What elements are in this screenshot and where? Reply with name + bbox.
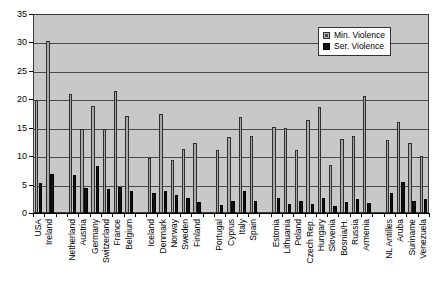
x-axis-tick-mark <box>203 213 204 217</box>
x-axis-tick-mark <box>67 213 68 217</box>
x-axis-tick-mark <box>406 213 407 217</box>
x-axis-category-label: Russia <box>351 219 360 245</box>
bar-ser-violence <box>299 201 302 213</box>
bar-min-violence <box>420 156 423 213</box>
bar-min-violence <box>239 117 242 213</box>
x-axis-tick-mark <box>418 213 419 217</box>
x-axis-tick-mark <box>293 213 294 217</box>
bar-ser-violence <box>73 175 76 213</box>
x-axis-tick-mark <box>90 213 91 217</box>
x-axis-tick-mark <box>124 213 125 217</box>
y-axis-tick-label: 15 <box>17 123 27 132</box>
x-axis-category-label: Belgium <box>125 219 134 250</box>
x-axis-tick-mark <box>316 213 317 217</box>
bar-min-violence <box>397 122 400 213</box>
legend-item-ser-violence: Ser. Violence <box>323 41 385 52</box>
x-axis-category-label: Aruba <box>396 219 405 242</box>
x-axis-tick-mark <box>225 213 226 217</box>
x-axis-tick-mark <box>214 213 215 217</box>
bar-ser-violence <box>401 182 404 213</box>
x-axis-category-label: Norway <box>170 219 179 248</box>
y-axis-tick-label: 25 <box>17 66 27 75</box>
bar-min-violence <box>193 143 196 213</box>
x-axis-tick-mark <box>361 213 362 217</box>
x-axis-category-label: Finland <box>193 219 202 247</box>
bar-ser-violence <box>152 193 155 213</box>
x-axis-tick-mark <box>338 213 339 217</box>
x-axis-category-label: Sweden <box>181 219 190 250</box>
x-axis-category-label: Spain <box>249 219 258 241</box>
bar-min-violence <box>352 136 355 213</box>
x-axis-labels: USAIrelandNetherlandAustriaGermanySwitze… <box>33 219 429 286</box>
bar-ser-violence <box>333 206 336 213</box>
x-axis-category-label: Ireland <box>45 219 54 245</box>
x-axis-tick-mark <box>350 213 351 217</box>
x-axis-tick-mark <box>271 213 272 217</box>
x-axis-tick-mark <box>33 213 34 217</box>
legend-label-ser-violence: Ser. Violence <box>334 42 384 51</box>
x-axis-category-label: Slovenia <box>328 219 337 252</box>
violence-bar-chart: 05101520253035 USAIrelandNetherlandAustr… <box>0 0 441 286</box>
y-axis-tick-label: 5 <box>22 180 27 189</box>
legend-label-min-violence: Min. Violence <box>334 31 385 40</box>
x-axis-tick-mark <box>305 213 306 217</box>
y-axis-tick-label: 35 <box>17 10 27 19</box>
bar-min-violence <box>363 96 366 213</box>
bar-min-violence <box>80 129 83 213</box>
x-axis-category-label: Italy <box>238 219 247 235</box>
x-axis-category-label: Estonia <box>272 219 281 247</box>
x-axis-category-label: Switzerland <box>102 219 111 263</box>
bar-min-violence <box>46 41 49 213</box>
x-axis-category-label: Bosnia/H. <box>340 219 349 256</box>
x-axis-category-label: Lithuania <box>283 219 292 254</box>
bar-min-violence <box>284 128 287 213</box>
bar-ser-violence <box>322 198 325 213</box>
x-axis-category-label: Poland <box>294 219 303 245</box>
y-axis-tick-label: 0 <box>22 209 27 218</box>
bar-ser-violence <box>345 202 348 213</box>
x-axis-category-label: Cyprus <box>227 219 236 246</box>
bar-ser-violence <box>231 201 234 213</box>
x-axis-tick-mark <box>169 213 170 217</box>
legend-item-min-violence: Min. Violence <box>323 30 385 41</box>
x-axis-tick-mark <box>191 213 192 217</box>
x-axis-category-label: France <box>113 219 122 245</box>
x-axis-tick-mark <box>101 213 102 217</box>
x-axis-tick-mark <box>372 213 373 217</box>
x-axis-category-label: USA <box>34 219 43 236</box>
bar-min-violence <box>125 116 128 213</box>
x-axis-tick-mark <box>395 213 396 217</box>
bar-ser-violence <box>118 187 121 213</box>
x-axis-category-label: Portugal <box>215 219 224 251</box>
bar-ser-violence <box>84 188 87 213</box>
x-axis-category-label: Netherland <box>68 219 77 261</box>
bar-min-violence <box>329 165 332 213</box>
y-axis-tick-label: 30 <box>17 38 27 47</box>
bar-ser-violence <box>311 204 314 213</box>
bar-min-violence <box>250 136 253 213</box>
bar-ser-violence <box>367 203 370 213</box>
bar-ser-violence <box>288 204 291 213</box>
bar-min-violence <box>318 107 321 213</box>
x-axis-tick-mark <box>180 213 181 217</box>
x-axis-category-label: Austria <box>79 219 88 245</box>
bar-min-violence <box>340 139 343 213</box>
x-axis-tick-mark <box>384 213 385 217</box>
bar-min-violence <box>386 140 389 213</box>
bar-ser-violence <box>356 199 359 213</box>
x-axis-tick-mark <box>248 213 249 217</box>
bar-ser-violence <box>220 205 223 213</box>
x-axis-category-label: Armenia <box>362 219 371 251</box>
x-axis-category-label: Denmark <box>159 219 168 253</box>
bar-ser-violence <box>130 191 133 213</box>
bar-min-violence <box>159 114 162 213</box>
x-axis-tick-mark <box>282 213 283 217</box>
bar-min-violence <box>148 158 151 213</box>
bar-min-violence <box>171 160 174 213</box>
bar-min-violence <box>91 106 94 213</box>
bar-min-violence <box>103 129 106 213</box>
bar-ser-violence <box>243 191 246 213</box>
x-axis-tick-mark <box>78 213 79 217</box>
bar-min-violence <box>216 150 219 213</box>
x-axis-category-label: Venezuela <box>419 219 428 259</box>
